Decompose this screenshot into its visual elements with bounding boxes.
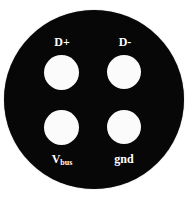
pin-hole-vbus [44,110,79,145]
pin-hole-dminus [107,55,141,89]
pin-label-dminus-text: D- [119,35,132,49]
connector-body-circle [4,10,184,189]
pin-label-dminus: D- [104,36,146,48]
connector-pinout-figure: D+ D- Vbus gnd [0,0,188,201]
pin-hole-gnd [107,110,141,144]
pin-label-dplus-text: D+ [54,35,70,49]
pin-hole-dplus [44,55,79,90]
pin-label-vbus-subscript: bus [60,158,72,167]
pin-label-vbus: Vbus [40,153,84,167]
pin-label-gnd-text: gnd [114,152,133,166]
pin-label-gnd: gnd [103,153,145,165]
pin-label-dplus: D+ [41,36,83,48]
